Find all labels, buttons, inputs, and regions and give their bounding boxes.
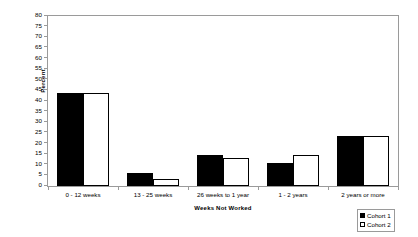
x-axis-tick-mark: [118, 187, 119, 190]
y-axis-tick: 20: [35, 139, 47, 147]
y-axis-tick-mark: [44, 15, 47, 16]
y-axis-tick: 45: [35, 85, 47, 93]
y-axis-tick-label: 45: [35, 85, 44, 93]
y-axis-tick-label: 15: [35, 149, 44, 157]
y-axis-tick-mark: [44, 46, 47, 47]
y-axis-tick-mark: [44, 25, 47, 26]
y-axis-tick: 35: [35, 107, 47, 115]
y-axis-tick-label: 80: [35, 11, 44, 19]
bar-group: [328, 16, 398, 186]
y-axis-tick-label: 75: [35, 22, 44, 30]
legend-item: Cohort 1: [360, 211, 391, 220]
bar: [153, 179, 179, 186]
y-axis: 80757065605550454035302520151050: [0, 15, 47, 187]
y-axis-tick-mark: [44, 142, 47, 143]
y-axis-tick-mark: [44, 121, 47, 122]
y-axis-tick-mark: [44, 163, 47, 164]
bar: [267, 163, 293, 186]
bar: [83, 93, 109, 187]
legend-swatch: [360, 222, 365, 227]
bar: [363, 136, 389, 186]
x-axis-title: Weeks Not Worked: [48, 205, 398, 211]
y-axis-tick-mark: [44, 100, 47, 101]
x-axis-labels: 0 - 12 weeks13 - 25 weeks26 weeks to 1 y…: [48, 191, 398, 198]
y-axis-tick-mark: [44, 36, 47, 37]
bar-group: [258, 16, 328, 186]
y-axis-tick: 70: [35, 32, 47, 40]
y-axis-tick-label: 35: [35, 107, 44, 115]
bar: [57, 93, 83, 187]
y-axis-tick-label: 55: [35, 64, 44, 72]
y-axis-tick: 30: [35, 117, 47, 125]
legend-swatch: [360, 213, 365, 218]
bar: [337, 136, 363, 186]
y-axis-tick: 25: [35, 128, 47, 136]
bar: [127, 173, 153, 186]
x-axis-category-label: 26 weeks to 1 year: [188, 191, 258, 198]
bar: [197, 155, 223, 186]
x-axis-tick-mark: [48, 187, 49, 190]
y-axis-tick: 15: [35, 149, 47, 157]
x-axis-category-label: 0 - 12 weeks: [48, 191, 118, 198]
x-axis-tick-mark: [258, 187, 259, 190]
y-axis-tick-label: 25: [35, 128, 44, 136]
y-axis-tick: 0: [39, 181, 47, 189]
y-axis-tick-mark: [44, 68, 47, 69]
bars-layer: [48, 16, 398, 186]
x-axis-tick-mark: [398, 187, 399, 190]
legend-item: Cohort 2: [360, 220, 391, 229]
x-axis-tick-mark: [188, 187, 189, 190]
bar-chart: Percent 80757065605550454035302520151050…: [0, 0, 418, 237]
bar-group: [188, 16, 258, 186]
y-axis-tick-mark: [44, 78, 47, 79]
y-axis-tick-label: 50: [35, 75, 44, 83]
bar-group: [48, 16, 118, 186]
y-axis-tick-label: 30: [35, 117, 44, 125]
y-axis-tick: 55: [35, 64, 47, 72]
y-axis-tick-label: 20: [35, 139, 44, 147]
y-axis-tick-mark: [44, 174, 47, 175]
y-axis-tick-mark: [44, 89, 47, 90]
y-axis-tick-mark: [44, 110, 47, 111]
y-axis-tick-label: 60: [35, 54, 44, 62]
y-axis-tick-mark: [44, 131, 47, 132]
y-axis-tick: 75: [35, 22, 47, 30]
x-axis-category-label: 13 - 25 weeks: [118, 191, 188, 198]
bar-group: [118, 16, 188, 186]
x-axis-category-label: 1 - 2 years: [258, 191, 328, 198]
y-axis-tick: 80: [35, 11, 47, 19]
y-axis-tick-label: 65: [35, 43, 44, 51]
y-axis-tick-mark: [44, 57, 47, 58]
y-axis-tick: 40: [35, 96, 47, 104]
y-axis-tick-label: 70: [35, 32, 44, 40]
x-axis-tick-mark: [328, 187, 329, 190]
y-axis-tick: 50: [35, 75, 47, 83]
y-axis-tick: 10: [35, 160, 47, 168]
legend-label: Cohort 2: [367, 220, 391, 229]
legend-label: Cohort 1: [367, 211, 391, 220]
y-axis-tick-mark: [44, 185, 47, 186]
bar: [223, 158, 249, 186]
y-axis-tick-label: 40: [35, 96, 44, 104]
y-axis-tick-label: 10: [35, 160, 44, 168]
y-axis-tick: 5: [39, 170, 47, 178]
y-axis-tick: 65: [35, 43, 47, 51]
bar: [293, 155, 319, 186]
x-axis-category-label: 2 years or more: [328, 191, 398, 198]
y-axis-tick: 60: [35, 54, 47, 62]
legend: Cohort 1Cohort 2: [357, 209, 395, 232]
y-axis-tick-mark: [44, 153, 47, 154]
